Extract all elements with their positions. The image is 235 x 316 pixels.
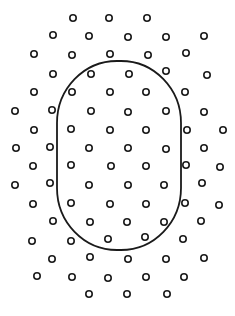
- background: [0, 0, 235, 316]
- diagram-canvas: [0, 0, 235, 316]
